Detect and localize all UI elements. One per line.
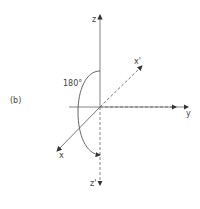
z-prime-axis-label: z'	[90, 180, 96, 188]
x-prime-axis-label: x'	[134, 58, 141, 66]
x-axis-label: x	[59, 152, 64, 160]
axes-diagram	[0, 0, 200, 209]
panel-label: (b)	[10, 97, 21, 105]
x-axis	[57, 107, 100, 151]
y-axis-label: y	[186, 110, 191, 118]
x-prime-axis	[100, 66, 142, 107]
rotation-angle-label: 180°	[63, 80, 82, 88]
z-axis-label: z	[92, 16, 96, 24]
